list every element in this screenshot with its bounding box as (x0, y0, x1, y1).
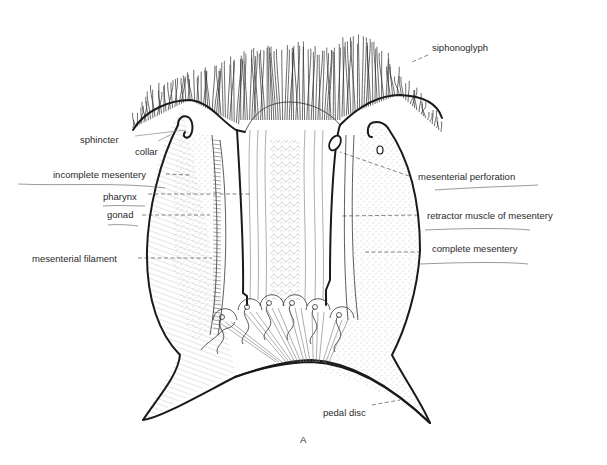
mesentery-strand (319, 312, 324, 362)
mesentery-strand (278, 308, 301, 362)
label-collar: collar (135, 146, 158, 157)
tentacle (333, 52, 334, 120)
mesentery-strand (316, 312, 318, 362)
gonad-segment (213, 152, 221, 153)
mesentery-strand (225, 322, 279, 362)
pharynx-ridge (304, 130, 305, 300)
gonad-segment (213, 176, 221, 177)
tentacle (231, 56, 232, 121)
tentacle (434, 111, 436, 126)
mesentery-strand (256, 312, 292, 362)
tentacle (334, 48, 335, 120)
pharynx-top (245, 102, 340, 132)
gonad-segment (213, 168, 221, 169)
mesenterial-perforation-1 (327, 134, 344, 153)
tentacle (250, 57, 252, 120)
diagram-canvas: siphonoglyph sphincter collar incomplete… (0, 0, 607, 465)
tentacle (358, 35, 359, 111)
gonad-segment (213, 208, 221, 209)
pharynx-inner-texture (270, 140, 300, 300)
pharynx-ridge (265, 130, 266, 300)
tentacle (282, 50, 283, 120)
gonad-segment (213, 200, 221, 201)
pharynx-ridge (249, 130, 250, 300)
tentacle (319, 55, 320, 120)
gonad-segment (213, 196, 221, 197)
body-wall-right (320, 120, 430, 423)
mesentery-strand (231, 322, 282, 362)
pharynx-wall-right (326, 125, 340, 305)
label-mesenterial-perforation: mesenterial perforation (418, 171, 515, 182)
tentacle (274, 51, 278, 120)
pharynx-ridge (314, 130, 315, 300)
gonad-segment (213, 148, 221, 149)
tentacle (308, 49, 309, 120)
tentacle (222, 63, 223, 117)
tentacle (224, 61, 225, 118)
tentacle (324, 53, 328, 120)
tentacle (316, 55, 318, 120)
tentacle (430, 113, 432, 122)
mesenterial-perforation-2 (377, 146, 383, 154)
gonad-segment (213, 184, 221, 185)
label-mesenterial-filament: mesenterial filament (32, 253, 117, 264)
tentacle (362, 36, 364, 109)
mesentery-strand (272, 308, 298, 362)
tentacle (276, 49, 280, 120)
label-gonad: gonad (107, 209, 133, 220)
label-pedal-disc: pedal disc (323, 407, 366, 418)
mesentery-strand (266, 308, 295, 362)
tentacle (364, 37, 366, 108)
label-sphincter: sphincter (80, 134, 119, 145)
anemone-diagram: siphonoglyph sphincter collar incomplete… (0, 0, 607, 465)
tentacle (268, 46, 269, 120)
tentacle (194, 70, 195, 102)
tentacle (432, 110, 433, 124)
label-incomplete-mesentery: incomplete mesentery (53, 169, 146, 180)
tentacle (294, 46, 298, 120)
gonad-segment (213, 180, 221, 181)
pharynx-wall-left (237, 130, 247, 305)
filament-knot (290, 301, 295, 306)
gonad-segment (213, 192, 221, 193)
tentacle (339, 44, 340, 120)
label-pharynx: pharynx (103, 191, 137, 202)
gonad-segment (213, 204, 221, 205)
pharynx-ridge (322, 130, 323, 300)
filament-knot (337, 313, 342, 318)
gonad-segment (213, 144, 221, 145)
tentacle (372, 42, 373, 105)
gonad-segment (213, 172, 221, 173)
filament-knot (267, 301, 272, 306)
filament-coil (310, 308, 317, 344)
tentacle (441, 122, 442, 132)
mesentery-strand (312, 312, 313, 362)
label-retractor-muscle: retractor muscle of mesentery (427, 210, 553, 221)
gonad-segment (213, 188, 221, 189)
pharynx-ridge (257, 130, 258, 300)
label-complete-mesentery: complete mesentery (432, 243, 518, 254)
tentacle (428, 112, 429, 120)
tentacle (303, 47, 304, 120)
tentacle (419, 93, 421, 112)
label-siphonoglyph: siphonoglyph (432, 42, 488, 53)
tentacle (408, 81, 409, 102)
filament-knot (313, 305, 318, 310)
panel-letter: A (300, 434, 307, 445)
tentacle (228, 65, 230, 119)
filament-lobe (238, 299, 262, 310)
tentacle (212, 66, 215, 111)
